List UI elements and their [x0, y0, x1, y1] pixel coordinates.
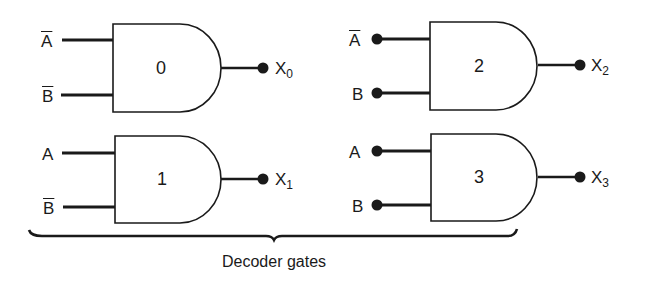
- output-label-x0: X0: [275, 60, 293, 80]
- input-label-gate1-b-bar: B: [43, 200, 54, 217]
- and-gate-0: [113, 24, 221, 112]
- input-label-gate3-a: A: [349, 144, 360, 161]
- input-label-gate2-b: B: [352, 86, 363, 103]
- input-label-gate3-b: B: [352, 198, 363, 215]
- and-gate-1: [115, 136, 221, 223]
- gate-number-1: 1: [157, 170, 167, 188]
- input-terminal-gate2-a: [372, 34, 383, 45]
- output-terminal-x1: [258, 174, 269, 185]
- output-label-x3: X3: [591, 169, 609, 189]
- output-label-x3-subscript: 3: [602, 176, 609, 190]
- output-label-x2-subscript: 2: [602, 64, 609, 78]
- output-label-x3-name: X: [591, 168, 602, 187]
- output-label-x2: X2: [591, 57, 609, 77]
- output-label-x1-name: X: [275, 170, 286, 189]
- decoder-diagram: [0, 0, 651, 283]
- output-label-x1-subscript: 1: [286, 178, 293, 192]
- input-label-gate0-a-bar: A: [41, 33, 52, 50]
- output-terminal-x2: [575, 60, 586, 71]
- input-terminal-gate2-b: [372, 88, 383, 99]
- gate-number-0: 0: [156, 59, 166, 77]
- input-label-gate2-a-bar: A: [349, 32, 360, 49]
- output-terminal-x3: [575, 172, 586, 183]
- diagram-caption: Decoder gates: [222, 253, 326, 271]
- gate-number-2: 2: [474, 57, 484, 75]
- gate-number-3: 3: [474, 168, 484, 186]
- output-label-x0-name: X: [275, 59, 286, 78]
- input-terminal-gate3-b: [372, 200, 383, 211]
- output-label-x1: X1: [275, 171, 293, 191]
- input-terminal-gate3-a: [372, 146, 383, 157]
- input-label-gate1-a: A: [42, 146, 53, 163]
- output-label-x0-subscript: 0: [286, 67, 293, 81]
- output-label-x2-name: X: [591, 56, 602, 75]
- input-label-gate0-b-bar: B: [42, 88, 53, 105]
- output-terminal-x0: [258, 63, 269, 74]
- grouping-brace: [29, 229, 517, 240]
